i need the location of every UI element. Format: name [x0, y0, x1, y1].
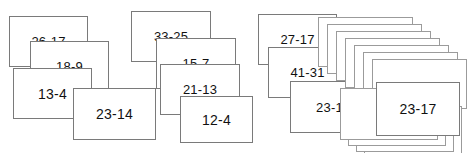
card-label: 41-31	[290, 66, 324, 79]
card-label: 13-4	[38, 87, 67, 101]
card-stacks-canvas: 26-1718-913-423-1433-2515-721-1312-427-1…	[0, 0, 468, 153]
card-label: 27-17	[280, 33, 314, 46]
card-23-17[interactable]: 23-17	[376, 82, 460, 136]
card-label: 23-14	[96, 107, 133, 121]
card-label: 21-13	[183, 83, 217, 96]
card-label: 23-1	[316, 101, 343, 114]
card-23-14[interactable]: 23-14	[73, 88, 156, 140]
card-label: 12-4	[202, 113, 231, 127]
card-12-4[interactable]: 12-4	[180, 96, 253, 143]
card-label: 23-17	[400, 102, 437, 116]
